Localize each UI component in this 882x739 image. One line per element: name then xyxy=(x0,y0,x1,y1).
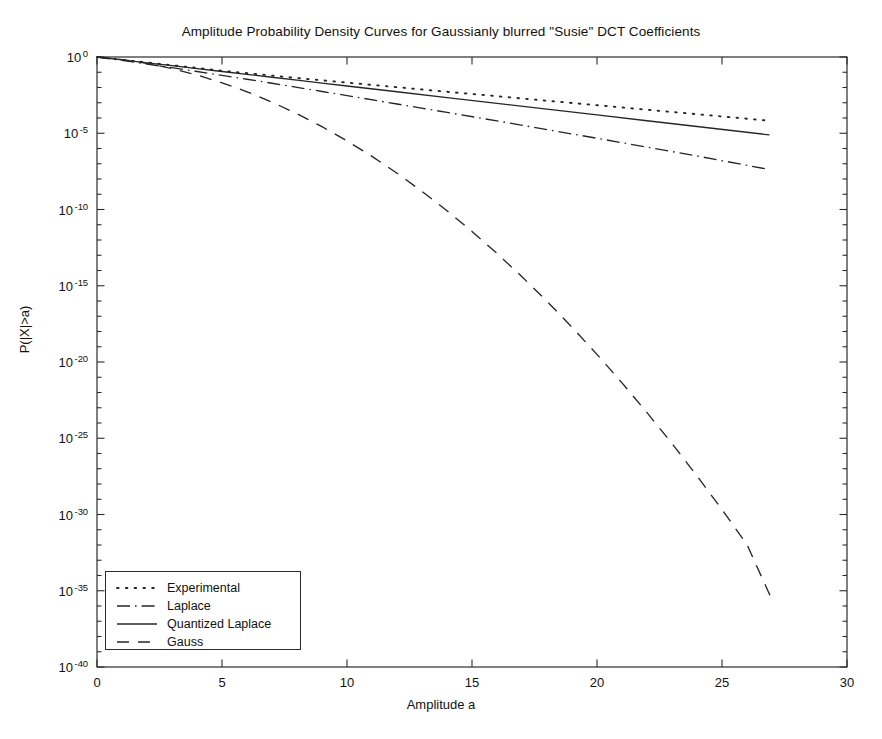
legend-item-laplace[interactable]: Laplace xyxy=(114,596,211,615)
x-tick-label: 0 xyxy=(77,675,117,690)
legend-swatch-dashdot xyxy=(114,600,160,612)
legend-swatch-dashed xyxy=(114,636,160,648)
legend: ExperimentalLaplaceQuantized LaplaceGaus… xyxy=(105,571,301,650)
legend-item-experimental[interactable]: Experimental xyxy=(114,578,240,597)
y-tick-label: 10-5 xyxy=(18,124,88,141)
legend-item-gauss[interactable]: Gauss xyxy=(114,633,203,652)
legend-swatch-solid xyxy=(114,618,160,630)
y-tick-label: 10-35 xyxy=(18,582,88,599)
y-axis-label: P(|X|>a) xyxy=(17,270,32,390)
legend-label: Gauss xyxy=(167,635,203,649)
x-axis-label: Amplitude a xyxy=(0,697,882,712)
x-tick-label: 10 xyxy=(327,675,367,690)
series-layer xyxy=(97,57,772,600)
x-tick-label: 25 xyxy=(702,675,742,690)
series-line-quantized-laplace xyxy=(97,57,770,135)
series-line-gauss xyxy=(97,57,772,600)
y-tick-label: 10-40 xyxy=(18,658,88,675)
figure: Amplitude Probability Density Curves for… xyxy=(0,0,882,739)
y-tick-label: 10-30 xyxy=(18,506,88,523)
series-line-laplace xyxy=(97,57,770,170)
x-tick-label: 30 xyxy=(827,675,867,690)
y-tick-label: 10-10 xyxy=(18,201,88,218)
y-tick-label: 100 xyxy=(18,48,88,65)
x-tick-label: 5 xyxy=(202,675,242,690)
x-tick-label: 15 xyxy=(452,675,492,690)
legend-item-quantized-laplace[interactable]: Quantized Laplace xyxy=(114,614,271,633)
legend-label: Quantized Laplace xyxy=(167,617,271,631)
y-tick-label: 10-25 xyxy=(18,429,88,446)
legend-label: Laplace xyxy=(167,599,211,613)
legend-swatch-dotted xyxy=(114,582,160,594)
series-line-experimental xyxy=(97,57,770,121)
x-tick-label: 20 xyxy=(577,675,617,690)
legend-label: Experimental xyxy=(167,581,240,595)
